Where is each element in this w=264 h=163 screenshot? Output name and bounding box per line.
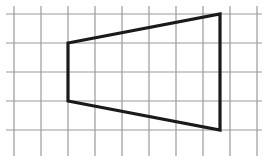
- trapezoid-grid-figure: [0, 0, 264, 163]
- square-grid: [6, 6, 262, 156]
- figure-canvas: [0, 0, 264, 163]
